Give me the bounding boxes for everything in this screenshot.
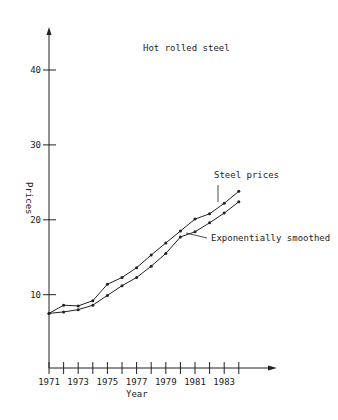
y-tick-label: 40 — [30, 65, 41, 75]
x-tick-label: 1975 — [97, 377, 119, 387]
x-tick-label: 1981 — [184, 377, 206, 387]
y-tick-label: 30 — [30, 140, 41, 150]
x-axis-arrow-icon — [268, 366, 277, 371]
data-point — [150, 265, 153, 268]
data-point — [135, 266, 138, 269]
line-chart: Hot rolled steel 10203040 Prices 1971197… — [0, 0, 338, 420]
data-point — [179, 230, 182, 233]
x-tick-label: 1977 — [126, 377, 148, 387]
data-point — [223, 202, 226, 205]
annotation-steel-prices-text: Steel prices — [214, 170, 279, 180]
data-point — [91, 304, 94, 307]
data-point — [121, 284, 124, 287]
data-point — [194, 230, 197, 233]
data-point — [150, 254, 153, 257]
series-group — [48, 190, 241, 315]
data-point — [91, 299, 94, 302]
data-point — [135, 276, 138, 279]
annotation-exponentially-smoothed-text: Exponentially smoothed — [211, 233, 330, 243]
chart-title: Hot rolled steel — [143, 43, 230, 53]
x-tick-label: 1979 — [155, 377, 177, 387]
series-exponentially-smoothed — [48, 200, 241, 315]
data-point — [62, 304, 65, 307]
data-point — [179, 236, 182, 239]
y-axis-arrow-icon — [47, 27, 52, 35]
data-point — [48, 312, 51, 315]
x-tick-label: 1971 — [38, 377, 60, 387]
data-point — [164, 242, 167, 245]
data-point — [164, 252, 167, 255]
x-axis: 1971197319751977197919811983 — [38, 362, 277, 387]
data-point — [223, 212, 226, 215]
x-tick-label: 1973 — [67, 377, 89, 387]
y-tick-label: 20 — [30, 215, 41, 225]
x-tick-label: 1983 — [213, 377, 235, 387]
data-point — [208, 212, 211, 215]
x-axis-label: Year — [126, 389, 148, 399]
data-point — [237, 200, 240, 203]
annotation-exponentially-smoothed: Exponentially smoothed — [186, 233, 330, 243]
annotation-steel-prices: Steel prices — [214, 170, 279, 202]
y-axis-label: Prices — [24, 182, 34, 215]
data-point — [237, 190, 240, 193]
data-point — [106, 283, 109, 286]
data-point — [106, 294, 109, 297]
data-point — [77, 304, 80, 307]
y-tick-label: 10 — [30, 290, 41, 300]
series-steel-prices — [48, 190, 241, 315]
data-point — [208, 221, 211, 224]
data-point — [62, 310, 65, 313]
data-point — [77, 308, 80, 311]
data-point — [121, 276, 124, 279]
data-point — [194, 218, 197, 221]
